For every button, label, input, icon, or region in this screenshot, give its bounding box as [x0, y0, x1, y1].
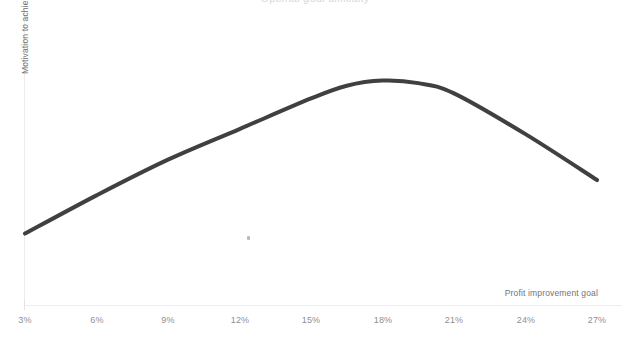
x-tick-label: 15%: [302, 315, 321, 325]
x-tick-label: 24%: [517, 315, 536, 325]
x-tick-label: 27%: [588, 315, 607, 325]
chart-container: Optimal goal difficulty Motivation to ac…: [0, 0, 630, 344]
x-tick-label: 9%: [161, 315, 174, 325]
x-tick-label: 21%: [445, 315, 464, 325]
motivation-curve-line: [25, 80, 597, 233]
stray-marker-dot: [247, 236, 250, 240]
x-tick-label: 18%: [374, 315, 393, 325]
x-tick-label: 12%: [231, 315, 250, 325]
x-tick-label: 6%: [90, 315, 103, 325]
x-tick-label: 3%: [18, 315, 31, 325]
plot-area: [0, 0, 630, 344]
